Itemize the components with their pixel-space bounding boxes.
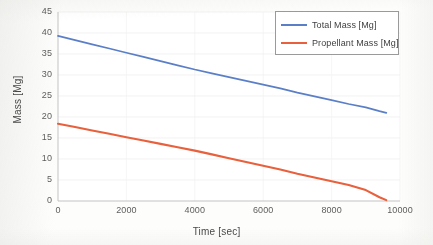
y-tick-label: 40 [28,27,52,37]
y-tick-label: 35 [28,48,52,58]
legend-swatch-total-mass [281,24,307,26]
y-tick-label: 5 [28,174,52,184]
y-tick-label: 25 [28,90,52,100]
x-tick-label: 2000 [101,205,151,215]
y-axis-title: Mass [Mg] [12,65,23,135]
x-tick-label: 8000 [307,205,357,215]
x-axis-title: Time [sec] [0,226,433,237]
chart-figure: 051015202530354045 020004000600080001000… [0,0,433,245]
y-tick-label: 10 [28,153,52,163]
y-tick-label: 20 [28,111,52,121]
x-tick-label: 0 [33,205,83,215]
legend-label-propellant-mass: Propellant Mass [Mg] [312,38,399,48]
legend-item-propellant-mass: Propellant Mass [Mg] [281,34,393,52]
legend-item-total-mass: Total Mass [Mg] [281,16,393,34]
x-tick-label: 4000 [170,205,220,215]
chart-legend: Total Mass [Mg] Propellant Mass [Mg] [275,11,399,55]
y-tick-label: 0 [28,195,52,205]
y-tick-label: 45 [28,6,52,16]
x-tick-label: 6000 [238,205,288,215]
legend-swatch-propellant-mass [281,42,307,44]
y-tick-label: 15 [28,132,52,142]
legend-label-total-mass: Total Mass [Mg] [312,20,377,30]
y-tick-label: 30 [28,69,52,79]
x-tick-label: 10000 [375,205,425,215]
